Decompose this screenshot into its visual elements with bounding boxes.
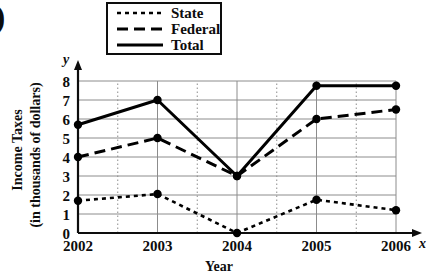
- y-tick-label-6: 6: [63, 112, 71, 128]
- y-tick-label-2: 2: [63, 188, 71, 204]
- y-tick-label-5: 5: [63, 131, 71, 147]
- x-tick-label-2002: 2002: [63, 238, 93, 254]
- data-point-total-2004: [233, 172, 241, 180]
- x-axis-symbol: x: [418, 236, 426, 251]
- y-axis-tick-labels: 012345678: [63, 74, 71, 242]
- chart-figure: ) 012345678 20022003200420052006 y x Yea…: [0, 0, 431, 276]
- legend-label-federal: Federal: [171, 21, 220, 37]
- data-point-state-2004: [233, 229, 241, 237]
- data-point-federal-2006: [392, 105, 400, 113]
- income-taxes-line-chart: ) 012345678 20022003200420052006 y x Yea…: [0, 0, 431, 276]
- y-tick-label-7: 7: [63, 93, 71, 109]
- data-point-state-2005: [312, 196, 320, 204]
- data-point-state-2006: [392, 206, 400, 214]
- data-point-federal-2002: [74, 153, 82, 161]
- data-point-state-2003: [153, 190, 161, 198]
- data-point-total-2002: [74, 121, 82, 129]
- data-point-federal-2005: [312, 115, 320, 123]
- x-axis-title: Year: [205, 259, 233, 274]
- legend-label-total: Total: [171, 37, 204, 53]
- y-tick-label-1: 1: [63, 207, 71, 223]
- y-axis-arrow: [74, 60, 82, 70]
- data-point-total-2005: [312, 82, 320, 90]
- x-tick-label-2004: 2004: [222, 238, 253, 254]
- y-axis-title-line1: Income Taxes: [10, 109, 25, 191]
- y-axis-title-line2: (in thousands of dollars): [28, 82, 44, 227]
- y-axis-symbol: y: [61, 52, 70, 67]
- x-tick-label-2006: 2006: [381, 238, 412, 254]
- y-tick-label-4: 4: [63, 150, 71, 166]
- figure-corner-mark: ): [0, 0, 5, 36]
- x-axis-tick-labels: 20022003200420052006: [63, 238, 412, 254]
- data-point-total-2006: [392, 82, 400, 90]
- data-point-state-2002: [74, 197, 82, 205]
- y-tick-label-8: 8: [63, 74, 71, 90]
- data-point-federal-2003: [153, 134, 161, 142]
- x-tick-label-2003: 2003: [143, 238, 173, 254]
- y-tick-label-3: 3: [63, 169, 71, 185]
- chart-legend: StateFederalTotal: [107, 3, 221, 54]
- legend-label-state: State: [171, 5, 204, 21]
- data-point-total-2003: [153, 96, 161, 104]
- x-tick-label-2005: 2005: [302, 238, 332, 254]
